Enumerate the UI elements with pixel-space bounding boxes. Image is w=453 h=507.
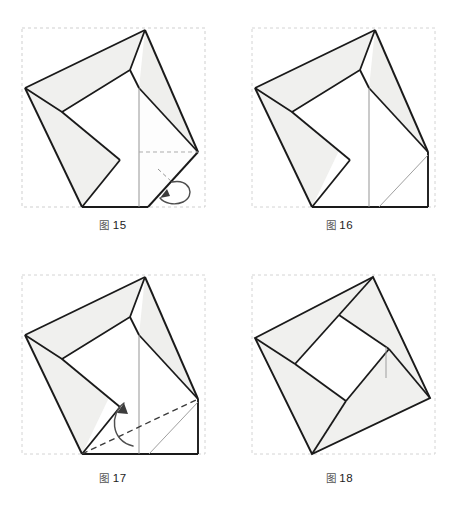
panel-18: 图18: [226, 253, 453, 507]
origami-figure-17-svg: [0, 253, 226, 467]
caption-number-18: 18: [339, 471, 353, 485]
panel-16: 图16: [226, 0, 453, 253]
diagram-sheet: 图15: [0, 0, 453, 507]
panel-grid: 图15: [0, 0, 453, 507]
caption-number-15: 15: [113, 218, 127, 232]
caption-15: 图15: [0, 218, 226, 232]
panel-17: 图17: [0, 253, 226, 507]
figure-15: [0, 0, 226, 214]
caption-prefix-18: 图: [326, 471, 337, 485]
figure-18: [226, 253, 453, 467]
figure-17: [0, 253, 226, 467]
caption-number-16: 16: [339, 218, 353, 232]
figure-16: [226, 0, 453, 214]
caption-17: 图17: [0, 471, 226, 485]
caption-prefix-17: 图: [99, 471, 110, 485]
caption-number-17: 17: [113, 471, 127, 485]
origami-figure-15-svg: [0, 0, 226, 214]
origami-figure-16-svg: [226, 0, 453, 214]
caption-prefix-15: 图: [99, 218, 110, 232]
caption-18: 图18: [226, 471, 453, 485]
caption-16: 图16: [226, 218, 453, 232]
origami-figure-18-svg: [226, 253, 453, 467]
caption-prefix-16: 图: [326, 218, 337, 232]
panel-15: 图15: [0, 0, 226, 253]
